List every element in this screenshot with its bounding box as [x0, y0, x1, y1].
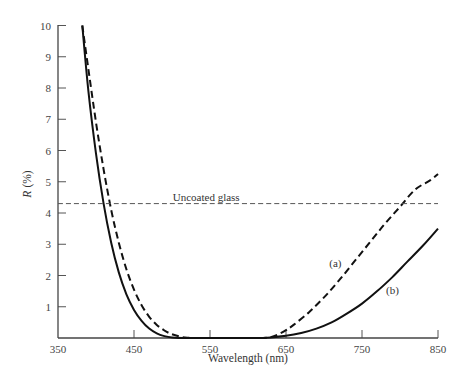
y-tick-label: 8 — [46, 82, 52, 94]
y-axis-ticks: 12345678910 — [40, 20, 66, 313]
y-axis-symbol: R — [21, 191, 33, 199]
annotation-label: (a) — [329, 257, 342, 270]
y-axis-title: R(%) — [21, 170, 34, 198]
series-b-solid-line — [82, 26, 438, 339]
y-axis-unit: (%) — [21, 170, 34, 187]
y-tick-label: 2 — [46, 270, 52, 282]
y-tick-label: 4 — [46, 207, 52, 219]
x-tick-label: 750 — [354, 343, 371, 355]
y-tick-label: 9 — [46, 51, 52, 63]
x-tick-label: 350 — [50, 343, 67, 355]
y-tick-label: 10 — [40, 20, 52, 32]
y-tick-label: 7 — [46, 113, 52, 125]
plot-annotations: Uncoated glass(a)(b) — [173, 191, 399, 296]
y-tick-label: 6 — [46, 145, 52, 157]
x-axis-title: Wavelength (nm) — [208, 352, 288, 365]
plot-series — [58, 26, 438, 339]
y-tick-label: 1 — [46, 301, 52, 313]
x-tick-label: 450 — [126, 343, 143, 355]
reflectance-chart: 12345678910 350450550650750850 Uncoated … — [0, 0, 466, 383]
annotation-label: (b) — [386, 284, 399, 297]
y-tick-label: 5 — [46, 176, 52, 188]
annotation-label: Uncoated glass — [173, 191, 240, 203]
y-tick-label: 3 — [46, 238, 52, 250]
x-tick-label: 850 — [430, 343, 447, 355]
series-a-dashed-line — [82, 26, 438, 339]
